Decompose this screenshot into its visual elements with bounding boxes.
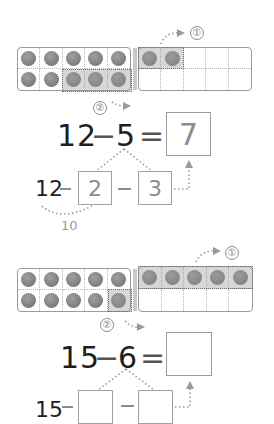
arrow-to-answer-icon [174,163,189,189]
split-line-left [98,369,126,390]
arrow-step-1-icon [196,251,218,262]
split-line-left [96,149,124,171]
arrow-step-2-icon [125,321,142,327]
arrow-to-answer-icon [175,384,190,407]
ten-bracket [42,206,92,214]
arrow-step-1-icon [161,33,182,44]
split-line-right [124,149,152,171]
split-line-right [126,369,154,390]
arrow-step-2-icon [112,102,128,106]
